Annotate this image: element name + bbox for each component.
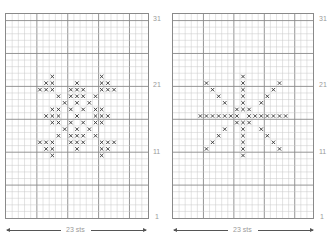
row-label-31: 31 [319,15,327,22]
stitch-x-mark [94,121,97,124]
stitch-x-mark [100,75,103,78]
stitch-x-mark [278,81,281,84]
stitch-x-mark [57,114,60,117]
stitch-x-mark [284,114,287,117]
stitch-x-mark [69,108,72,111]
stitch-x-mark [51,154,54,157]
stitch-x-mark [247,114,250,117]
row-label-21: 21 [319,81,327,88]
stitch-x-mark [81,134,84,137]
stitch-x-mark [235,108,238,111]
stitch-x-mark [75,134,78,137]
stitch-x-mark [51,81,54,84]
stitch-x-mark [51,147,54,150]
row-label-11: 11 [153,148,160,155]
stitch-x-mark [44,147,47,150]
stitch-x-mark [75,88,78,91]
stitch-grid-left [5,13,149,219]
stitch-x-mark [88,101,91,104]
stitch-x-mark [57,121,60,124]
width-arrow-right [258,230,313,231]
stitch-x-mark [100,147,103,150]
stitch-x-mark [106,114,109,117]
stitch-grid-right [172,13,314,219]
stitch-x-mark [266,95,269,98]
stitch-x-mark [69,134,72,137]
width-label: 23 sts [66,226,85,233]
stitch-x-mark [44,114,47,117]
stitch-x-mark [75,101,78,104]
stitch-x-mark [211,88,214,91]
stitch-x-mark [75,127,78,130]
stitch-x-mark [241,101,244,104]
stitch-x-mark [75,114,78,117]
stitch-x-mark [51,141,54,144]
width-arrow-left [174,230,228,231]
stitch-x-mark [241,141,244,144]
stitch-x-mark [75,147,78,150]
stitch-x-mark [272,141,275,144]
stitch-x-mark [51,88,54,91]
stitch-x-mark [57,108,60,111]
stitch-x-mark [241,108,244,111]
stitch-x-mark [241,154,244,157]
stitch-x-mark [75,81,78,84]
stitch-x-mark [63,127,66,130]
stitch-x-mark [247,108,250,111]
stitch-x-mark [241,88,244,91]
stitch-x-mark [272,88,275,91]
row-label-31: 31 [153,15,161,22]
row-label-11: 11 [319,148,326,155]
stitch-x-mark [260,101,263,104]
stitch-x-mark [81,95,84,98]
stitch-x-mark [229,114,232,117]
row-label-1: 1 [155,213,159,220]
stitch-x-mark [223,127,226,130]
stitch-x-mark [69,88,72,91]
stitch-x-mark [241,95,244,98]
stitch-x-mark [38,88,41,91]
stitch-x-mark [106,141,109,144]
width-arrow-right [91,230,146,231]
width-label: 23 sts [233,226,252,233]
stitch-x-mark [75,95,78,98]
stitch-x-mark [241,121,244,124]
stitch-x-mark [88,127,91,130]
stitch-x-mark [69,95,72,98]
row-label-21: 21 [153,81,161,88]
stitch-x-mark [100,81,103,84]
stitch-x-mark [260,114,263,117]
stitch-x-mark [247,121,250,124]
stitch-x-mark [253,114,256,117]
stitch-x-mark [81,121,84,124]
grid-lines [173,14,313,218]
stitch-x-mark [75,141,78,144]
stitch-x-mark [51,121,54,124]
width-arrow-left [7,230,61,231]
stitch-x-mark [278,147,281,150]
stitch-x-mark [211,114,214,117]
stitch-x-mark [94,134,97,137]
stitch-x-mark [199,114,202,117]
stitch-x-mark [106,81,109,84]
stitch-x-mark [94,95,97,98]
stitch-x-mark [205,147,208,150]
stitch-x-mark [51,114,54,117]
stitch-x-mark [106,88,109,91]
stitch-x-mark [217,134,220,137]
stitch-x-mark [81,108,84,111]
stitch-x-mark [57,95,60,98]
stitch-x-mark [57,134,60,137]
stitch-x-mark [100,108,103,111]
stitch-x-mark [94,114,97,117]
stitch-x-mark [266,114,269,117]
stitch-x-mark [81,88,84,91]
stitch-x-mark [112,141,115,144]
stitch-x-mark [51,108,54,111]
grid-lines [6,14,148,218]
stitch-x-mark [278,114,281,117]
stitch-x-mark [44,141,47,144]
stitch-x-mark [100,114,103,117]
stitch-x-mark [205,81,208,84]
stitch-x-mark [106,147,109,150]
